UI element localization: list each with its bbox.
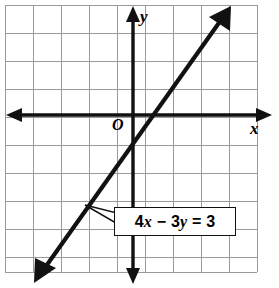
x-axis-arrow-left bbox=[6, 108, 22, 122]
equation-coef-y: 3 bbox=[171, 213, 180, 230]
equation-callout-box: 4x − 3y = 3 bbox=[114, 207, 236, 236]
equation-equals: = bbox=[192, 213, 202, 230]
equation-var-y: y bbox=[180, 213, 187, 230]
x-axis-label: x bbox=[250, 120, 259, 137]
equation-constant: 3 bbox=[206, 213, 215, 230]
line-arrow-lower-left bbox=[34, 258, 56, 283]
equation-minus: − bbox=[157, 213, 167, 230]
equation-coef-x: 4 bbox=[135, 213, 144, 230]
graph-canvas bbox=[0, 0, 279, 288]
y-axis-arrow-down bbox=[126, 268, 140, 284]
origin-label: O bbox=[112, 117, 124, 133]
equation-label: 4x − 3y = 3 bbox=[135, 213, 216, 231]
equation-var-x: x bbox=[144, 213, 152, 230]
line-arrow-upper-right bbox=[209, 6, 231, 31]
coordinate-plane-figure: y x O 4x − 3y = 3 bbox=[0, 0, 279, 288]
y-axis-arrow-up bbox=[126, 6, 140, 22]
x-axis bbox=[6, 108, 272, 122]
y-axis-label: y bbox=[140, 8, 148, 25]
